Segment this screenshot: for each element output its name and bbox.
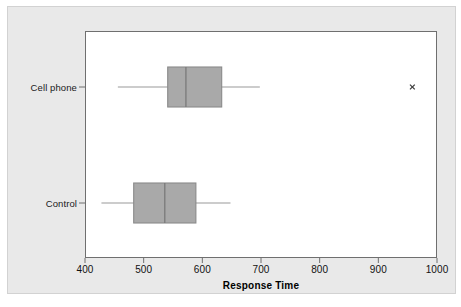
x-tick-label: 400 xyxy=(77,264,94,275)
x-tick-label: 1000 xyxy=(426,264,449,275)
category-label-cell-phone: Cell phone xyxy=(0,82,77,93)
x-tick-label: 600 xyxy=(194,264,211,275)
x-tick-label: 900 xyxy=(370,264,387,275)
x-tick-label: 700 xyxy=(253,264,270,275)
x-tick-label: 800 xyxy=(311,264,328,275)
x-tick-label: 500 xyxy=(135,264,152,275)
x-axis-title: Response Time xyxy=(223,280,299,291)
plot-panel xyxy=(85,31,437,258)
category-label-control: Control xyxy=(0,198,77,209)
boxplot-figure: Cell phone Control 400500600700800900100… xyxy=(0,0,461,307)
